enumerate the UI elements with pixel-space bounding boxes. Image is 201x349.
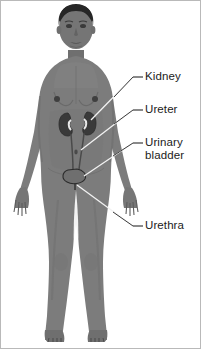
navel — [74, 150, 77, 155]
right-ear — [91, 26, 96, 34]
right-foot — [88, 330, 108, 342]
label-urinary-bladder: Urinary bladder — [145, 136, 184, 162]
label-kidney-text: Kidney — [145, 70, 181, 82]
label-kidney: Kidney — [145, 70, 181, 83]
left-nipple — [54, 96, 60, 102]
anatomy-illustration — [0, 0, 201, 349]
label-urinary-bladder-text-line1: Urinary — [145, 136, 183, 148]
leader-line-ureter-dark — [114, 110, 133, 124]
label-urethra: Urethra — [145, 219, 184, 232]
right-eye — [80, 24, 86, 28]
label-ureter: Ureter — [145, 103, 178, 116]
right-knee — [84, 253, 98, 271]
label-ureter-text: Ureter — [145, 103, 178, 115]
right-nipple — [92, 96, 98, 102]
left-hand — [14, 187, 29, 216]
right-hand — [123, 187, 138, 216]
left-ear — [57, 26, 62, 34]
left-eye — [66, 24, 72, 28]
label-urinary-bladder-text-line2: bladder — [145, 149, 184, 162]
urinary-bladder — [63, 169, 86, 184]
leader-line-kidney-dark — [114, 77, 133, 97]
left-foot — [45, 330, 65, 342]
left-knee — [54, 253, 68, 271]
label-urethra-text: Urethra — [145, 219, 184, 231]
urinary-system-figure: Kidney Ureter Urinary bladder Urethra — [0, 0, 201, 349]
head — [57, 4, 96, 49]
